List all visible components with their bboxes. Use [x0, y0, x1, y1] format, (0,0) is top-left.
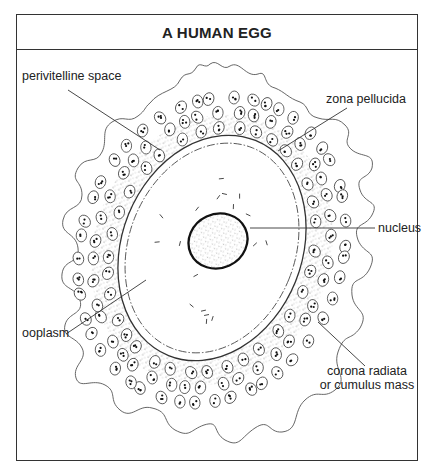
follicle-cell — [228, 90, 240, 104]
follicle-cell — [273, 103, 284, 116]
follicle-cell — [76, 229, 87, 243]
follicle-cell — [245, 92, 261, 109]
follicle-cell — [71, 251, 85, 267]
follicle-cell — [103, 250, 114, 264]
follicle-cell — [209, 394, 221, 408]
follicle-cell — [316, 310, 330, 326]
follicle-cell — [259, 96, 274, 112]
label-text: or cumulus mass — [320, 378, 414, 392]
follicle-cell — [152, 110, 168, 127]
label-perivitelline-space: perivitelline space — [22, 69, 160, 150]
label-text: ooplasm — [22, 326, 69, 340]
follicle-cell — [109, 361, 122, 376]
follicle-cell — [71, 272, 85, 287]
follicle-cell — [165, 362, 175, 375]
follicle-cell — [189, 395, 201, 409]
label-text: zona pellucida — [326, 92, 406, 106]
follicle-cell — [72, 286, 88, 303]
label-text: perivitelline space — [22, 69, 121, 83]
follicle-cell — [94, 174, 108, 189]
follicle-cell — [174, 395, 186, 409]
follicle-cell — [201, 91, 215, 107]
follicle-cell — [86, 189, 100, 205]
follicle-cell — [154, 389, 169, 405]
follicle-cell — [301, 334, 315, 350]
leader-line — [318, 322, 365, 366]
follicle-cell — [173, 99, 189, 115]
follicle-cell — [327, 292, 338, 305]
follicle-cell — [284, 351, 300, 368]
follicle-cell — [192, 94, 204, 108]
human-egg-illustration: perivitelline spacezona pellucidanucleus… — [0, 0, 431, 472]
label-corona-radiata: corona radiataor cumulus mass — [318, 322, 414, 392]
follicle-cell — [177, 133, 188, 146]
granule — [155, 242, 160, 243]
leader-line — [68, 90, 160, 150]
follicle-cell — [121, 139, 132, 152]
follicle-cell — [287, 110, 300, 125]
follicle-cell — [77, 213, 93, 230]
follicle-cell — [107, 152, 122, 168]
follicle-cell — [95, 343, 107, 357]
follicle-cell — [269, 365, 285, 382]
follicle-cell — [223, 389, 239, 406]
follicle-cell — [339, 213, 352, 228]
follicle-cell — [84, 325, 100, 342]
label-text: nucleus — [378, 221, 421, 235]
follicle-cell — [336, 249, 351, 265]
label-text: corona radiata — [327, 364, 407, 378]
follicle-cell — [333, 270, 346, 285]
follicle-cell — [166, 378, 177, 391]
granule — [219, 178, 224, 179]
